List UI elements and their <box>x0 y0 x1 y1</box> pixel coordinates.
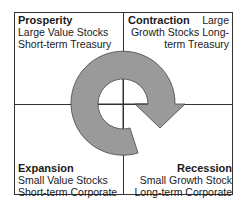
quadrant-line: Short-term Corporate <box>18 186 117 198</box>
quadrant-title-suffix: Large <box>202 14 229 26</box>
quadrant-line: Long-term Corporate <box>135 186 232 198</box>
quadrant-line: Small Value Stocks <box>18 174 117 186</box>
quadrant-title: Contraction <box>128 14 190 26</box>
quadrant-line: term Treasury <box>128 38 229 50</box>
quadrant-line: Short-term Treasury <box>18 38 111 50</box>
quadrant-recession: Recession Small Growth Stock Long-term C… <box>135 162 232 198</box>
quadrant-line: Large Value Stocks <box>18 26 111 38</box>
quadrant-line: Small Growth Stock <box>135 174 232 186</box>
quadrant-title: Prosperity <box>18 14 111 26</box>
quadrant-title: Expansion <box>18 162 117 174</box>
quadrant-title: Recession <box>135 162 232 174</box>
quadrant-expansion: Expansion Small Value Stocks Short-term … <box>18 162 117 198</box>
quadrant-contraction: Contraction Large Growth Stocks Long- te… <box>128 14 229 50</box>
quadrant-prosperity: Prosperity Large Value Stocks Short-term… <box>18 14 111 50</box>
quadrant-line: Growth Stocks Long- <box>128 26 229 38</box>
